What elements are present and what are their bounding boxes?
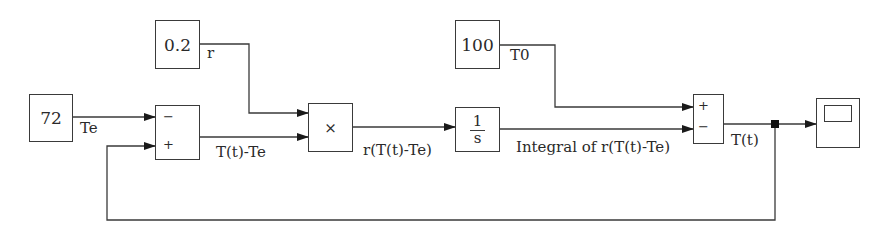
signal-label-diff: T(t)-Te: [216, 143, 266, 161]
constant-block-r[interactable]: 0.2: [155, 20, 200, 69]
constant-value: 72: [40, 108, 62, 128]
signal-label-te: Te: [80, 119, 98, 137]
tf-denominator: s: [474, 131, 482, 146]
scope-icon: [824, 105, 852, 122]
connection-lines: [0, 0, 891, 234]
product-icon: ×: [324, 119, 337, 137]
sum-sign-minus: −: [698, 119, 709, 134]
scope-block[interactable]: [816, 98, 860, 148]
transfer-function: 1 s: [470, 114, 486, 146]
wire-feedback: [107, 124, 775, 220]
product-block[interactable]: ×: [308, 103, 353, 152]
constant-block-te[interactable]: 72: [29, 94, 73, 142]
sum-sign-minus: −: [163, 109, 174, 124]
constant-value: 0.2: [164, 35, 191, 55]
signal-label-integral: Integral of r(T(t)-Te): [516, 138, 670, 156]
integrator-block[interactable]: 1 s: [455, 107, 500, 152]
signal-label-r: r: [207, 44, 214, 62]
branch-junction: [771, 120, 779, 128]
sum-sign-plus: +: [698, 98, 709, 113]
wire-r: [199, 44, 308, 113]
signal-label-tt: T(t): [731, 131, 759, 149]
signal-label-t0: T0: [510, 46, 530, 64]
sum-block-2[interactable]: + −: [693, 94, 724, 144]
constant-block-t0[interactable]: 100: [455, 20, 500, 69]
tf-numerator: 1: [470, 114, 486, 131]
constant-value: 100: [461, 35, 493, 55]
signal-label-product-out: r(T(t)-Te): [363, 141, 432, 159]
sum-sign-plus: +: [163, 137, 174, 152]
sum-block-1[interactable]: − +: [155, 105, 200, 160]
